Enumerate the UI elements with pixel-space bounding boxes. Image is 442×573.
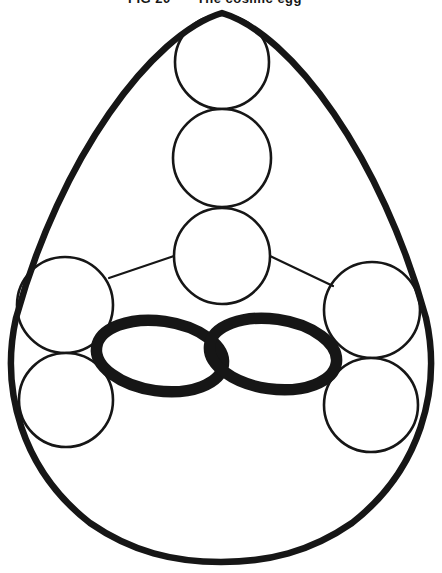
- middle-circle: [173, 109, 271, 207]
- left-connector-line: [109, 256, 174, 278]
- cosmic-egg-diagram: [0, 0, 442, 573]
- right-upper-circle: [324, 262, 420, 358]
- center-circle: [174, 208, 270, 304]
- right-connector-line: [270, 256, 333, 286]
- scanned-page: FIG 20The cosmic egg: [0, 0, 442, 573]
